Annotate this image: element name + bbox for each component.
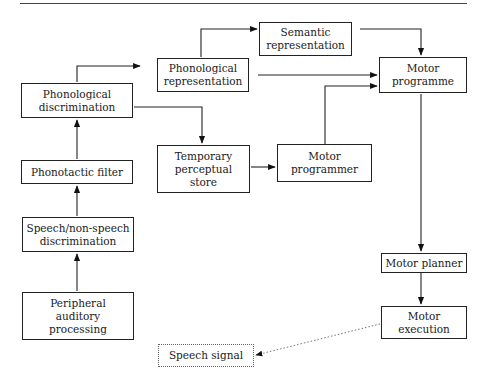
node-motor-programme: Motor programme: [379, 57, 467, 93]
node-label: Motor execution: [398, 310, 450, 336]
edge-semantic-motorprogramme: [360, 29, 421, 55]
node-label: Motor programmer: [291, 150, 358, 176]
edge-discrim-tempstore: [134, 107, 202, 143]
edge-phonrep-semantic: [201, 29, 257, 57]
node-label: Temporary perceptual store: [175, 150, 233, 189]
node-speech-signal: Speech signal: [158, 344, 254, 367]
node-label: Phonological discrimination: [39, 88, 116, 114]
node-label: Peripheral auditory processing: [49, 297, 107, 336]
edge-discrim-phonrep: [77, 66, 140, 82]
edge-motorprogrammer-motorprogramme: [325, 86, 377, 144]
node-temporary-perceptual-store: Temporary perceptual store: [157, 145, 250, 193]
node-peripheral-auditory-processing: Peripheral auditory processing: [22, 292, 134, 340]
node-phonotactic-filter: Phonotactic filter: [21, 160, 133, 184]
node-motor-execution: Motor execution: [381, 306, 467, 339]
node-phonological-discrimination: Phonological discrimination: [21, 83, 133, 118]
node-motor-planner: Motor planner: [381, 253, 467, 273]
node-speech-nonspeech-discrimination: Speech/non-speech discrimination: [22, 217, 134, 252]
node-label: Motor programme: [392, 62, 454, 88]
node-label: Speech signal: [169, 349, 243, 362]
node-semantic-representation: Semantic representation: [259, 22, 352, 56]
node-phonological-representation: Phonological representation: [157, 58, 249, 92]
edge-execution-speechsignal: [256, 324, 380, 355]
node-motor-programmer: Motor programmer: [277, 144, 372, 182]
node-label: Phonotactic filter: [31, 166, 123, 179]
node-label: Motor planner: [385, 257, 462, 270]
node-label: Semantic representation: [266, 26, 345, 52]
node-label: Speech/non-speech discrimination: [26, 222, 129, 248]
node-label: Phonological representation: [164, 62, 243, 88]
